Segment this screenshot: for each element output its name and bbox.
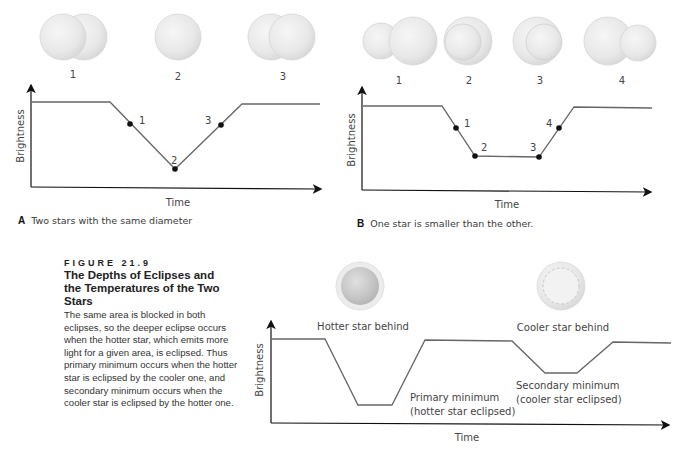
figure-title: The Depths of Eclipses and the Temperatu…	[64, 269, 234, 308]
light-curve	[363, 106, 652, 157]
x-axis	[362, 190, 650, 192]
y-axis-title: Brightness	[346, 113, 357, 166]
curve-point-1	[453, 125, 459, 131]
point-label: 4	[546, 118, 552, 129]
panel-a-star-diagrams: 1 2 3	[40, 14, 315, 82]
star-label: 4	[619, 75, 625, 86]
star-pair-a1	[40, 14, 107, 60]
point-label: 3	[205, 115, 211, 126]
point-label: 3	[530, 142, 536, 153]
x-axis	[271, 423, 668, 425]
star-label: 1	[70, 69, 76, 80]
star-label: 3	[280, 71, 286, 82]
point-label: 1	[464, 118, 470, 129]
curve-point-2	[172, 166, 178, 172]
star-pair-b2	[444, 17, 492, 65]
panel-a-caption: ATwo stars with the same diameter	[18, 215, 192, 226]
primary-minimum-label: Primary minimum	[410, 392, 499, 403]
cooler-star-behind-diagram	[537, 262, 585, 310]
star-pair-b1	[363, 17, 437, 65]
panel-c-light-curve: Primary minimum (hotter star eclipsed) S…	[254, 322, 671, 443]
panel-a-letter: A	[18, 215, 25, 226]
curve-point-3	[218, 122, 224, 128]
figure-body: The same area is blocked in both eclipse…	[64, 309, 239, 410]
curve-point-3	[536, 154, 542, 160]
curve-point-2	[472, 153, 478, 159]
point-label: 1	[139, 115, 145, 126]
figure-description: FIGURE 21.9 The Depths of Eclipses and t…	[64, 258, 234, 410]
panel-b-star-diagrams: 1 2 3 4	[363, 17, 656, 86]
star-pair-a2	[155, 14, 201, 60]
hotter-star-behind-diagram	[336, 262, 384, 310]
star-pair-b4	[584, 17, 656, 65]
panel-b-letter: B	[357, 218, 364, 229]
panel-b-caption-text: One star is smaller than the other.	[370, 218, 533, 229]
star-label: 2	[466, 75, 472, 86]
cooler-star-label: Cooler star behind	[517, 322, 609, 333]
panel-b-caption: BOne star is smaller than the other.	[357, 218, 533, 229]
primary-minimum-sublabel: (hotter star eclipsed)	[410, 406, 515, 417]
panel-c-star-diagrams: Hotter star behind Cooler star behind	[317, 262, 609, 333]
secondary-minimum-sublabel: (cooler star eclipsed)	[516, 394, 622, 405]
star-label: 3	[537, 75, 543, 86]
x-axis	[31, 187, 320, 189]
star-pair-a3	[248, 14, 315, 60]
point-label: 2	[481, 142, 487, 153]
panel-b-light-curve: 1 2 3 4 Time Brightness	[346, 88, 652, 210]
curve-point-4	[556, 125, 562, 131]
panel-a-light-curve: 1 2 3 Time Brightness	[15, 86, 320, 208]
star-label: 2	[175, 71, 181, 82]
y-axis-title: Brightness	[15, 109, 26, 162]
point-label: 2	[171, 155, 177, 166]
y-axis-title: Brightness	[254, 343, 265, 396]
curve-point-1	[127, 121, 133, 127]
x-axis-title: Time	[165, 197, 190, 208]
star-pair-b3	[513, 17, 562, 65]
star-label: 1	[396, 75, 402, 86]
x-axis-title: Time	[494, 199, 519, 210]
x-axis-title: Time	[454, 432, 479, 443]
hotter-star-label: Hotter star behind	[317, 321, 409, 332]
figure-number: FIGURE 21.9	[64, 258, 234, 268]
secondary-minimum-label: Secondary minimum	[516, 380, 620, 391]
panel-a-caption-text: Two stars with the same diameter	[31, 215, 192, 226]
